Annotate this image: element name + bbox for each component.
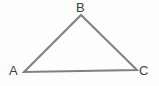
vertex-label-c: C [139, 64, 148, 77]
vertex-label-a: A [9, 64, 18, 77]
triangle-outline [24, 15, 137, 72]
vertex-label-b: B [76, 1, 85, 14]
triangle-diagram: A B C [0, 0, 159, 86]
